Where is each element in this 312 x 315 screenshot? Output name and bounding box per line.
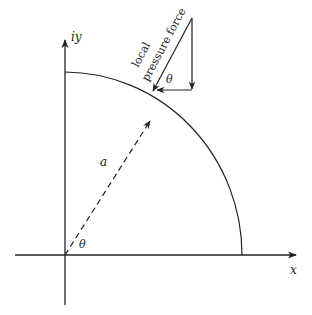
y-axis-label: iy: [71, 30, 82, 44]
pressure-force-diagram: iy x a θ θ local pressure force: [0, 0, 312, 315]
quarter-circle-arc: [65, 72, 242, 255]
force-angle-label: θ: [166, 73, 173, 86]
x-axis-label: x: [290, 263, 297, 277]
radius-label: a: [100, 155, 107, 169]
radius-dashed-arrow: [65, 121, 150, 255]
origin-angle-label: θ: [79, 238, 86, 251]
